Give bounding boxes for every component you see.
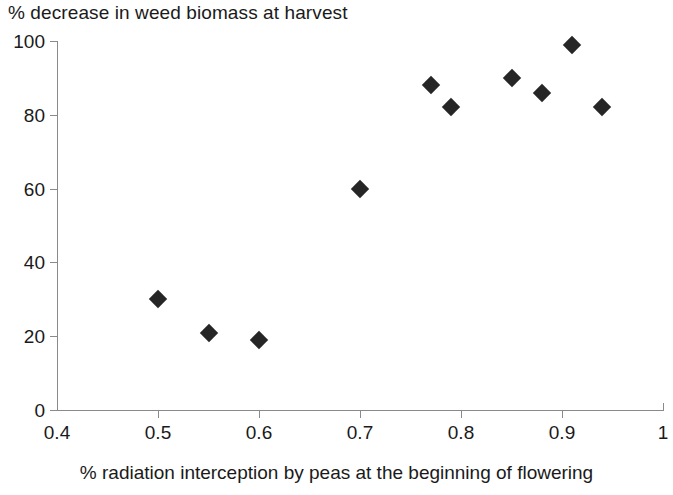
x-axis-tick	[360, 411, 361, 418]
y-axis-tick-label: 100	[13, 32, 45, 51]
data-point-marker	[563, 35, 581, 53]
x-axis-tick-label: 1	[658, 423, 669, 442]
y-axis-tick	[50, 410, 57, 411]
chart-title: % decrease in weed biomass at harvest	[8, 2, 348, 24]
y-axis-tick-label: 20	[24, 327, 45, 346]
scatter-chart-figure: % decrease in weed biomass at harvest 02…	[0, 0, 673, 495]
x-axis-tick	[259, 411, 260, 418]
x-axis-tick	[461, 411, 462, 418]
data-point-marker	[593, 98, 611, 116]
x-axis-tick-label: 0.4	[44, 423, 70, 442]
y-axis-tick-label: 40	[24, 253, 45, 272]
x-axis-tick-label: 0.5	[145, 423, 171, 442]
y-axis-tick-label: 60	[24, 180, 45, 199]
data-point-marker	[351, 179, 369, 197]
y-axis-tick-label: 80	[24, 106, 45, 125]
x-axis-tick	[562, 411, 563, 418]
x-axis-end-cap	[663, 403, 664, 411]
y-axis-tick	[50, 262, 57, 263]
plot-area	[57, 41, 663, 410]
x-axis-tick-label: 0.6	[246, 423, 272, 442]
y-axis-tick	[50, 189, 57, 190]
x-axis-tick-label: 0.9	[549, 423, 575, 442]
data-point-marker	[149, 290, 167, 308]
data-point-marker	[442, 98, 460, 116]
data-point-marker	[502, 69, 520, 87]
x-axis-tick	[158, 411, 159, 418]
data-point-marker	[199, 323, 217, 341]
x-axis-tick-label: 0.7	[347, 423, 373, 442]
data-point-marker	[533, 83, 551, 101]
y-axis-tick	[50, 115, 57, 116]
data-point-marker	[250, 331, 268, 349]
y-axis-tick	[50, 41, 57, 42]
x-axis-tick-label: 0.8	[448, 423, 474, 442]
y-axis-tick-label: 0	[34, 401, 45, 420]
y-axis-tick	[50, 336, 57, 337]
x-axis-title: % radiation interception by peas at the …	[0, 462, 673, 484]
data-point-marker	[421, 76, 439, 94]
